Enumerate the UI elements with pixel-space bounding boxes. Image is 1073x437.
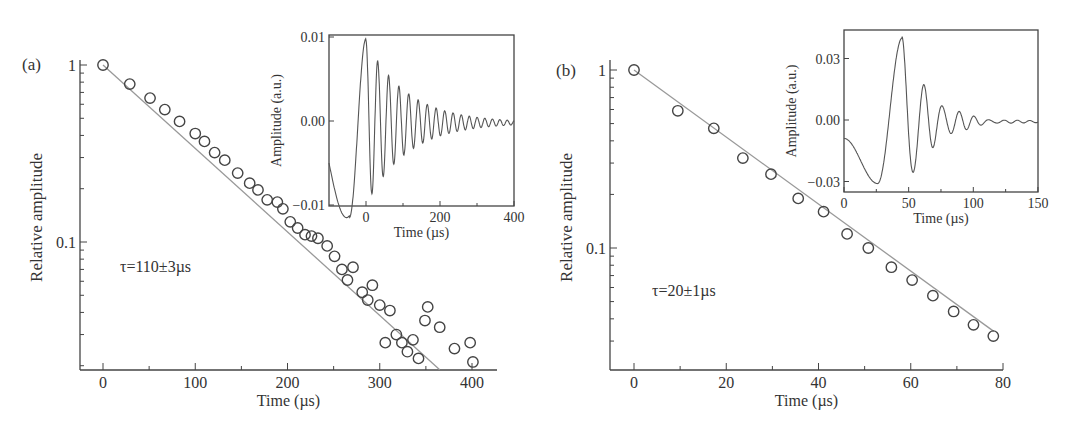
tau-annotation: τ=110±3µs [120,258,191,276]
x-axis-label: Time (µs) [775,392,838,410]
data-point [863,243,873,253]
x-tick-label: 300 [368,374,392,391]
data-point [262,195,272,205]
data-point [337,264,347,274]
x-tick-label: 60 [903,374,919,391]
inset-x-axis-label: Time (µs) [394,225,450,241]
panel-label: (b) [556,61,576,80]
inset-y-tick-label: 0.00 [301,114,326,129]
data-point [220,155,230,165]
x-tick-label: 0 [630,374,638,391]
inset-x-tick-label: 100 [963,196,984,211]
data-point [278,204,288,214]
data-point [968,320,978,330]
data-point [413,353,423,363]
inset-x-tick-label: 150 [1027,196,1048,211]
data-point [306,231,316,241]
inset-x-tick-label: 0 [363,210,370,225]
data-point [253,185,263,195]
data-point [423,302,433,312]
data-point [232,168,242,178]
inset-plot: 0501001500.030.00−0.03Time (µs)Amplitude… [784,30,1048,227]
data-point [420,315,430,325]
data-point [174,116,184,126]
data-point [313,233,323,243]
inset-waveform [329,39,514,218]
y-tick-label: 1 [598,62,606,79]
inset-x-tick-label: 50 [902,196,916,211]
tau-annotation: τ=20±1µs [652,282,716,300]
inset-x-axis-label: Time (µs) [913,211,969,227]
data-point [125,79,135,89]
x-tick-label: 200 [276,374,300,391]
x-tick-label: 40 [811,374,827,391]
data-point [367,280,377,290]
data-point [886,262,896,272]
panel-label: (a) [22,55,41,74]
x-tick-label: 20 [718,374,734,391]
data-point [272,197,282,207]
data-point [160,104,170,114]
inset-y-tick-label: −0.03 [808,175,840,190]
inset-y-tick-label: 0.01 [301,30,326,45]
data-point [449,343,459,353]
data-point [738,153,748,163]
data-point [190,128,200,138]
x-axis-label: Time (µs) [257,392,320,410]
inset-waveform [844,37,1038,184]
y-tick-label: 0.1 [56,234,76,251]
data-point [402,347,412,357]
data-point [145,93,155,103]
data-point [408,335,418,345]
data-point [380,337,390,347]
data-point [842,229,852,239]
panel-a: (a)010020030040010.1Time (µs)Relative am… [22,30,525,410]
data-point [322,241,332,251]
inset-y-axis-label: Amplitude (a.u.) [784,64,800,157]
x-tick-label: 100 [183,374,207,391]
data-point [793,193,803,203]
inset-y-tick-label: 0.03 [816,52,841,67]
inset-plot: 02004000.010.00−0.01Time (µs)Amplitude (… [269,30,525,241]
inset-x-tick-label: 0 [841,196,848,211]
x-tick-label: 80 [995,374,1011,391]
inset-x-tick-label: 400 [504,210,525,225]
x-tick-label: 0 [99,374,107,391]
inset-y-tick-label: −0.01 [293,198,325,213]
data-point [468,357,478,367]
figure: (a)010020030040010.1Time (µs)Relative am… [0,0,1073,437]
data-point [209,147,219,157]
data-point [673,106,683,116]
y-tick-label: 0.1 [586,240,606,257]
inset-frame [844,30,1038,192]
data-point [465,337,475,347]
inset-y-axis-label: Amplitude (a.u.) [269,74,285,167]
panel-b: (b)02040608010.1Time (µs)Relative amplit… [556,30,1048,410]
y-axis-label: Relative amplitude [557,153,576,282]
data-point [385,305,395,315]
inset-y-tick-label: 0.00 [816,113,841,128]
y-axis-label: Relative amplitude [27,153,46,282]
data-point [928,290,938,300]
data-point [907,275,917,285]
data-point [375,300,385,310]
data-point [435,322,445,332]
data-point [199,136,209,146]
data-point [342,275,352,285]
data-point [988,331,998,341]
data-point [348,262,358,272]
inset-x-tick-label: 200 [430,210,451,225]
data-point [329,251,339,261]
x-tick-label: 400 [460,374,484,391]
y-tick-label: 1 [68,57,76,74]
data-point [766,169,776,179]
data-point [948,306,958,316]
